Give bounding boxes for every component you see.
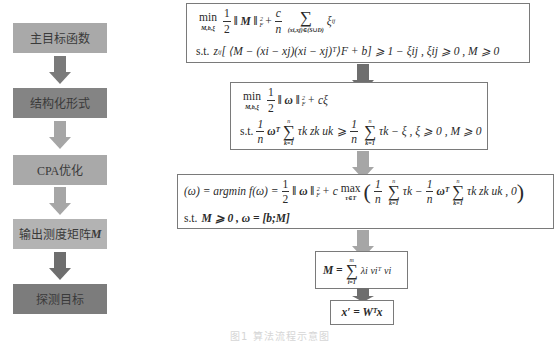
min-operator: min (199, 12, 217, 24)
formula-box-projection: x′ = Wᵀx (330, 300, 394, 325)
figure-caption: 图1 算法流程示意图 (230, 328, 330, 343)
constraint-body: [ ⟨M − (xi − xj)(xi − xj)ᵀ⟩F + b] ⩾ 1 − … (222, 46, 500, 58)
xi-subscript: ij (332, 18, 336, 25)
constraint-rest: τk − ξ , ξ ⩾ 0 , M ⩾ 0 (379, 126, 481, 138)
step-structured-form: 结构化形式 (13, 88, 107, 118)
sum-subscript: k=1 (365, 140, 374, 146)
frac-num: 1 (350, 119, 358, 133)
frac-den: 2 (283, 192, 289, 206)
min-subscript: M,b,ξ (201, 25, 215, 31)
norm-sub: F (316, 192, 320, 198)
frac-num: 1 (223, 8, 231, 22)
down-arrow-icon (49, 252, 71, 280)
step-label: 结构化形式 (30, 94, 90, 112)
formula-box-structured: minM,b,ξ 12 ‖ ω ‖ 2F + cξ s.t. 1n ωᵀ n∑k… (230, 82, 488, 150)
omega-transpose: ωᵀ (436, 186, 448, 198)
step-label: 探测目标 (36, 290, 84, 308)
sum-icon: ∑ (364, 124, 376, 139)
formula-box-metric-matrix: M = m∑i=1 λi viᵀ vi (315, 251, 408, 289)
left-paren: ( (364, 181, 371, 203)
down-arrow-icon (49, 56, 71, 84)
right-paren: ) (517, 181, 524, 203)
sum-icon: ∑ (300, 10, 312, 25)
sum-term: λi viᵀ vi (361, 266, 391, 276)
frac-num: 1 (267, 87, 275, 101)
frac-den: n (375, 192, 381, 206)
matrix-lhs: M = (323, 265, 343, 277)
formula-box-cpa: (ω) = argmin f(ω) = 12 ‖ ω ‖ 2F + c maxτ… (177, 174, 554, 229)
frac-den: n (257, 132, 263, 146)
norm-term: ‖ M ‖ (234, 16, 258, 28)
plus-c: + c (322, 186, 338, 198)
sum-icon: ∑ (283, 124, 295, 139)
geq: ⩾ (337, 126, 347, 138)
subject-to: s.t. (240, 126, 253, 138)
norm-sub: F (302, 101, 306, 107)
subject-to: s.t. (196, 46, 209, 58)
frac-num: c (275, 8, 282, 22)
down-arrow-icon (49, 121, 71, 149)
step-output-metric-matrix: 输出测度矩阵M (13, 219, 107, 249)
down-arrow-icon (49, 187, 71, 215)
sum-icon: ∑ (346, 263, 358, 278)
norm-sub: F (260, 22, 264, 28)
matrix-symbol: M (91, 227, 102, 242)
omega-transpose: ωᵀ (267, 126, 279, 138)
frac-num: 1 (256, 119, 264, 133)
objective-rest: + cξ (307, 95, 328, 107)
step-label: 主目标函数 (30, 29, 90, 47)
frac-den: n (427, 192, 433, 206)
sum-subscript: i=1 (348, 279, 356, 285)
sum-subscript: (xi,xj)∈(S∪D) (288, 27, 324, 33)
norm-term: ‖ ω ‖ (292, 186, 314, 198)
min-subscript: M,b,ξ (245, 104, 259, 110)
sum-subscript: k=1 (453, 200, 462, 206)
frac-den: 2 (224, 22, 230, 36)
step-label: CPA优化 (37, 161, 83, 179)
frac-den: 2 (268, 101, 274, 115)
step-main-objective: 主目标函数 (13, 23, 107, 53)
sum-icon: ∑ (388, 184, 400, 199)
frac-num: 1 (282, 179, 290, 193)
argmin-lhs: (ω) = argmin f(ω) = (184, 186, 279, 198)
max-operator: max (341, 183, 361, 195)
step-label: 输出测度矩阵 (19, 225, 91, 243)
subject-to: s.t. (184, 213, 197, 225)
plus: + (265, 16, 272, 28)
term2: τk zk uk , 0 (467, 186, 517, 198)
norm-term: ‖ ω ‖ (278, 95, 300, 107)
sum-subscript: k=1 (389, 200, 398, 206)
sum-subscript: k=1 (284, 140, 293, 146)
min-operator: min (243, 91, 261, 103)
frac-num: 1 (426, 179, 434, 193)
sum-term: τk zk uk (298, 126, 333, 138)
projection-formula: x′ = Wᵀx (341, 307, 382, 319)
sum-icon: ∑ (452, 184, 464, 199)
formula-box-objective: minM,b,ξ 12 ‖ M ‖ 2F + cn ∑(xi,xj)∈(S∪D)… (186, 3, 530, 63)
frac-num: 1 (374, 179, 382, 193)
frac-den: n (275, 22, 281, 36)
step-cpa-optimization: CPA优化 (13, 155, 107, 185)
constraint-body: M ⩾ 0 , ω = [b;M] (201, 213, 289, 225)
step-detect-target: 探测目标 (13, 284, 107, 314)
max-subscript: τ∈T (345, 195, 356, 201)
frac-den: n (351, 132, 357, 146)
term1: τk − (403, 186, 423, 198)
